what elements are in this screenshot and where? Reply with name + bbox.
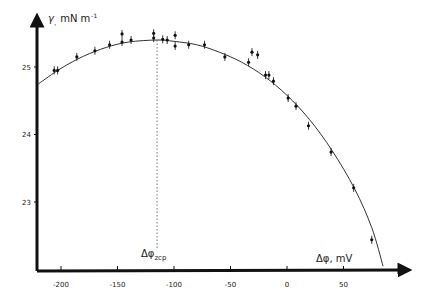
data-point <box>370 236 373 244</box>
chart-canvas: -200-150-100-50050232425 γ,mN m-1 Δφ, mV… <box>0 0 422 302</box>
data-point <box>250 48 253 56</box>
x-axis <box>37 270 405 271</box>
x-tick-label: -150 <box>110 281 126 289</box>
x-tick-label: 50 <box>339 281 348 289</box>
data-point <box>174 42 177 50</box>
y-axis-label: γ,mN m-1 <box>48 12 97 27</box>
x-tick-label: -50 <box>225 281 236 289</box>
data-point <box>267 71 270 79</box>
data-point <box>187 41 190 49</box>
data-point <box>93 47 96 55</box>
data-point <box>256 51 259 59</box>
zcp-label: Δφzcp <box>141 248 167 262</box>
data-point <box>161 35 164 43</box>
axis-ticks <box>34 67 344 270</box>
x-tick-label: -200 <box>53 281 69 289</box>
x-tick-label: -100 <box>166 281 182 289</box>
data-point <box>152 29 155 37</box>
data-point <box>307 122 310 130</box>
data-point <box>174 31 177 39</box>
data-points <box>53 29 374 244</box>
y-tick-label: 25 <box>22 64 31 72</box>
data-point <box>56 66 59 74</box>
x-axis-label: Δφ, mV <box>316 253 353 264</box>
data-point <box>129 36 132 44</box>
data-point <box>120 30 123 38</box>
axis-tick-labels: -200-150-100-50050232425 <box>22 64 348 290</box>
data-point <box>329 148 332 156</box>
x-tick-label: 0 <box>285 281 289 289</box>
data-point <box>108 41 111 49</box>
y-tick-label: 24 <box>22 131 31 139</box>
data-point <box>120 38 123 46</box>
data-point <box>166 36 169 44</box>
y-tick-label: 23 <box>22 199 31 207</box>
